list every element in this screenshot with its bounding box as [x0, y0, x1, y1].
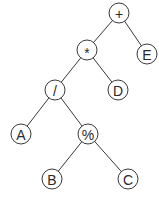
tree-node-B: B: [42, 169, 62, 189]
tree-node-D: D: [108, 80, 128, 100]
node-label: D: [113, 83, 123, 99]
tree-node-star: *: [77, 40, 97, 61]
node-label: *: [84, 45, 90, 61]
node-label: C: [123, 172, 133, 188]
node-label: B: [47, 172, 56, 188]
tree-node-percent: %: [78, 124, 98, 144]
node-label: %: [82, 127, 94, 143]
node-label: +: [115, 6, 123, 22]
tree-node-A: A: [11, 124, 31, 144]
tree-node-slash: /: [45, 80, 65, 100]
tree-node-plus: +: [109, 3, 129, 23]
node-label: E: [142, 47, 151, 63]
node-label: /: [53, 83, 57, 99]
tree-node-E: E: [137, 44, 157, 64]
node-label: A: [16, 127, 26, 143]
tree-edges: [21, 13, 147, 179]
tree-node-C: C: [118, 169, 138, 189]
tree-nodes: +*E/DA%BC: [11, 3, 157, 189]
expression-tree-diagram: +*E/DA%BC: [0, 0, 159, 199]
